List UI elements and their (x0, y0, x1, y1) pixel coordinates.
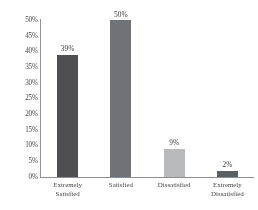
x-axis-category-label-line: Dissatisfied (148, 180, 201, 189)
x-axis-category-label-line: Extremely (41, 180, 94, 189)
x-axis-category-label-line: Satisfied (41, 189, 94, 198)
bar-slot: 39% (57, 20, 78, 177)
bar-value-label: 50% (96, 10, 145, 21)
bar: 39% (57, 55, 78, 177)
bar-slot: 2% (217, 20, 238, 177)
y-axis-tick-label: 15% (8, 126, 38, 134)
x-axis-category-label-line: Satisfied (94, 180, 147, 189)
y-axis-tick-label: 50% (8, 16, 38, 24)
bar: 9% (164, 149, 185, 177)
x-axis-category-label: ExtremelyDissatisfied (201, 180, 254, 199)
y-axis-tick-label: 25% (8, 94, 38, 102)
x-axis-category-label: Satisfied (94, 180, 147, 189)
x-axis-category-label-line: Extremely (201, 180, 254, 189)
bar: 50% (110, 20, 131, 177)
y-axis-tick-label: 30% (8, 79, 38, 87)
bar-value-label: 9% (150, 138, 199, 149)
y-axis-tick-labels: 50% 45% 40% 35% 30% 25% 20% 15% 10% 5% 0… (8, 0, 38, 210)
bar-chart: 50% 45% 40% 35% 30% 25% 20% 15% 10% 5% 0… (0, 0, 258, 210)
plot-area: 39% 50% 9% 2% (41, 20, 254, 177)
bar: 2% (217, 171, 238, 177)
y-axis-tick-label: 5% (8, 157, 38, 165)
y-axis-tick-label: 10% (8, 141, 38, 149)
bar-value-label: 39% (43, 44, 92, 55)
bar-value-label: 2% (203, 160, 252, 171)
x-axis-category-label: ExtremelySatisfied (41, 180, 94, 199)
bar-slot: 9% (164, 20, 185, 177)
x-axis-line (40, 177, 254, 178)
y-axis-tick-label: 20% (8, 110, 38, 118)
y-axis-tick-label: 35% (8, 63, 38, 71)
bar-slot: 50% (110, 20, 131, 177)
y-axis-tick-label: 0% (8, 173, 38, 181)
x-axis-category-labels: ExtremelySatisfied Satisfied Dissatisfie… (41, 180, 254, 210)
y-axis-tick-label: 40% (8, 47, 38, 55)
x-axis-category-label: Dissatisfied (148, 180, 201, 189)
x-axis-category-label-line: Dissatisfied (201, 189, 254, 198)
y-axis-tick-label: 45% (8, 32, 38, 40)
